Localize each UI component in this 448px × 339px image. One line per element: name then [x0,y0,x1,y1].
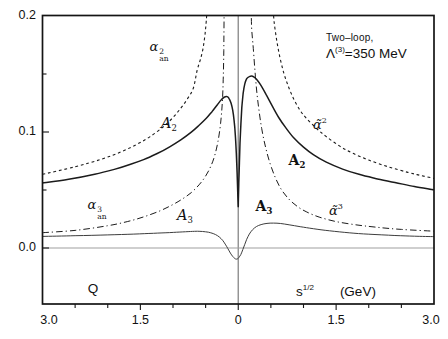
lambda-value: =350 MeV [345,46,407,61]
subscript: 3 [266,206,272,216]
curve-alpha2_an_perturbative_spacelike [43,4,208,174]
curve-label-fraktur-A2: A2 [289,153,306,170]
y-tick-label: 0.0 [4,240,36,254]
curve-label-fraktur-A3: A3 [256,199,273,216]
y-tick-label: 0.1 [4,124,36,138]
x-tick-label: 3.0 [40,313,57,327]
subscript: an [97,214,106,221]
annotation: Two–loop, Λ(3)=350 MeV [326,33,407,61]
fraktur-A-symbol: A [256,198,267,214]
subscript: 2 [172,123,177,133]
exponent: 3 [338,202,343,211]
s-exponent: 1/2 [303,283,314,292]
alpha-symbol: α [87,197,96,212]
x-tick-label: 3.0 [422,313,439,327]
unit-gev: (GeV) [340,284,376,299]
curve-label-alpha3-an: α3an [87,198,106,220]
supsub-stack: 2an [159,49,168,62]
subscript: an [159,56,168,63]
lambda-symbol: Λ [326,46,335,61]
x-axis-label-spacelike: Q [88,281,99,296]
curve-label-alphatilde3: α̃3 [329,203,343,217]
subscript: 3 [188,215,193,225]
y-tick-label: 0.2 [4,8,36,22]
fraktur-A-symbol: A [289,152,300,168]
s-symbol: s [296,284,303,299]
alpha-tilde-symbol: α̃ [313,117,322,132]
curve-label-alpha2-an: α2an [149,40,168,62]
curve-label-script-A2: A2 [161,116,177,133]
x-axis-label-timelike: s1/2(GeV) [296,283,376,299]
alpha-tilde-symbol: α̃ [329,203,338,218]
script-A-symbol: A [177,207,187,223]
x-tick-label: 0 [235,313,242,327]
annotation-line2: Λ(3)=350 MeV [326,46,407,61]
subscript: 2 [299,160,305,170]
script-A-symbol: A [161,115,171,131]
lambda-superscript: (3) [335,45,345,54]
curve-label-alphatilde2: α̃2 [313,117,327,131]
supsub-stack: 3an [97,207,106,220]
alpha-symbol: α [149,39,158,54]
curve-alpha3_an_perturbative_spacelike [43,4,225,232]
curve-label-script-A3: A3 [177,208,193,225]
exponent: 2 [322,116,327,125]
figure-two-loop-coupling-plot: α2an A2 A2 α̃2 α3an A3 A3 α̃3 Two–loop, … [0,0,448,339]
x-tick-label: 1.5 [327,313,344,327]
annotation-line1: Two–loop, [326,33,407,43]
x-tick-label: 1.5 [132,313,149,327]
